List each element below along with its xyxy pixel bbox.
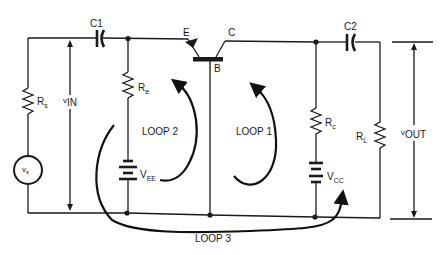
- loop-2-arrow: LOOP 2: [142, 84, 197, 181]
- battery-vcc: [309, 163, 323, 182]
- vs-label: vs: [22, 165, 29, 175]
- base-bar: [193, 57, 223, 62]
- vout-label: vOUT: [401, 128, 426, 140]
- collector-branch: Rc VCC: [309, 42, 344, 217]
- resistor-rc: [311, 108, 321, 134]
- rs-label: Rs: [37, 96, 48, 109]
- loop-1-arrow: LOOP 1: [234, 88, 276, 185]
- rc-label: Rc: [325, 117, 336, 130]
- vin-indicator: vIN: [60, 40, 82, 211]
- loop-3-arrow: LOOP 3: [96, 125, 342, 244]
- resistor-re: [123, 72, 133, 98]
- source-branch: Rs vs: [14, 38, 48, 213]
- top-wire-input: [28, 38, 188, 39]
- load-branch: RL: [356, 42, 385, 218]
- c1-label: C1: [90, 18, 103, 29]
- loop-2-label: LOOP 2: [142, 126, 178, 137]
- battery-vee: [119, 161, 137, 179]
- loop-3-label: LOOP 3: [195, 233, 231, 244]
- rl-label: RL: [356, 131, 367, 144]
- re-label: Re: [138, 82, 149, 95]
- c2-label: C2: [344, 21, 357, 32]
- base-label: B: [214, 63, 221, 74]
- collector-label: C: [228, 27, 235, 38]
- transistor: E C B: [183, 27, 316, 215]
- bottom-ground-wire: [28, 213, 380, 218]
- vee-label: VEE: [140, 169, 156, 182]
- vout-indicator: vOUT: [390, 42, 440, 219]
- capacitor-c2: C2: [316, 21, 380, 51]
- resistor-rl: [375, 122, 385, 148]
- loop-1-label: LOOP 1: [236, 126, 272, 137]
- circuit-diagram: C1 Rs vs vIN Re VEE: [0, 0, 447, 255]
- resistor-rs: [23, 88, 33, 114]
- capacitor-c1: C1: [90, 18, 104, 47]
- emitter-label: E: [183, 27, 190, 38]
- vcc-label: VCC: [327, 171, 344, 184]
